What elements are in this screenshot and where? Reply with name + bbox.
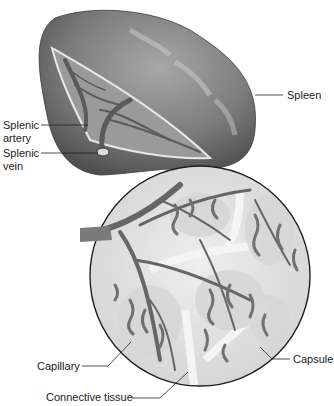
label-connective-tissue: Connective tissue <box>46 391 133 404</box>
label-capillary: Capillary <box>37 360 80 373</box>
label-splenic-artery: Splenic artery <box>3 119 39 145</box>
label-capsule: Capsule <box>293 353 333 366</box>
spleen-illustration <box>0 0 334 406</box>
label-splenic-artery-line2: artery <box>3 132 39 145</box>
label-splenic-vein-line2: vein <box>3 160 39 173</box>
label-splenic-vein: Splenic vein <box>3 147 39 173</box>
label-splenic-artery-line1: Splenic <box>3 119 39 132</box>
label-splenic-vein-line1: Splenic <box>3 147 39 160</box>
label-spleen: Spleen <box>287 89 321 102</box>
spleen-diagram: Spleen Splenic artery Splenic vein Capil… <box>0 0 334 406</box>
